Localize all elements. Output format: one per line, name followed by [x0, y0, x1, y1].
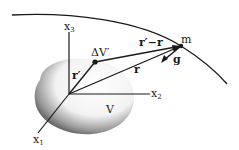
x1-label: x1: [33, 134, 44, 147]
x3-label: x3: [64, 21, 75, 34]
gravity-diagram: x3 x2 x1 ΔV′ r′ r r′−r m g V: [0, 0, 239, 150]
r-prime-label: r′: [72, 70, 81, 81]
delta-v-label: ΔV′: [91, 47, 109, 58]
m-label: m: [181, 34, 191, 45]
delta-v-element: [92, 59, 97, 64]
g-label: g: [173, 54, 181, 65]
r-label: r: [134, 64, 140, 75]
diagram-graphics: [0, 0, 239, 150]
mass-body: [35, 58, 134, 134]
g-arrowhead: [161, 55, 168, 63]
x2-label: x2: [151, 88, 162, 101]
volume-label: V: [106, 104, 114, 115]
r-prime-minus-r-label: r′−r: [139, 37, 163, 48]
